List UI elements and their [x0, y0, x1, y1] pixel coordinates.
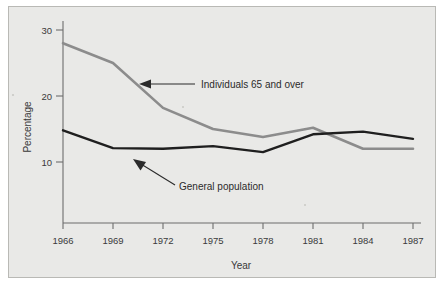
annotation-arrow-shaft: [141, 164, 175, 185]
paper-speck: [12, 94, 14, 96]
line-chart: 30 20 10 Percentage 1966 1969 1972 1975 …: [9, 7, 436, 278]
x-axis: 1966 1969 1972 1975 1978 1981 1984 1987 …: [52, 223, 423, 271]
y-axis-title: Percentage: [22, 101, 33, 153]
chart-figure: 30 20 10 Percentage 1966 1969 1972 1975 …: [8, 6, 436, 278]
x-tick-label-1987: 1987: [402, 235, 423, 246]
x-axis-title: Year: [231, 260, 252, 271]
annotation-individuals-65-and-over: Individuals 65 and over: [139, 79, 305, 90]
y-axis: 30 20 10 Percentage: [22, 21, 63, 223]
x-tick-label-1972: 1972: [152, 235, 173, 246]
x-tick-label-1984: 1984: [352, 235, 373, 246]
y-tick-label-10: 10: [41, 157, 52, 168]
paper-speck: [304, 204, 306, 206]
annotation-label-elderly: Individuals 65 and over: [201, 79, 305, 90]
paper-speck: [182, 106, 184, 108]
y-tick-label-20: 20: [41, 91, 52, 102]
x-tick-label-1975: 1975: [202, 235, 223, 246]
annotation-label-general: General population: [179, 181, 264, 192]
x-tick-label-1969: 1969: [102, 235, 123, 246]
y-tick-label-30: 30: [41, 25, 52, 36]
x-tick-label-1978: 1978: [252, 235, 273, 246]
x-tick-label-1966: 1966: [52, 235, 73, 246]
x-tick-label-1981: 1981: [302, 235, 323, 246]
diagonal-up-left-arrow-icon: [133, 159, 146, 171]
annotation-general-population: General population: [133, 159, 264, 192]
